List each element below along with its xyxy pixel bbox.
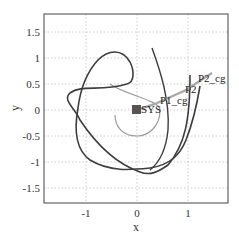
svg-text:0: 0 <box>134 207 140 219</box>
svg-text:-0.5: -0.5 <box>23 130 41 142</box>
svg-text:1: 1 <box>35 52 41 64</box>
svg-text:0: 0 <box>35 104 41 116</box>
svg-text:0.5: 0.5 <box>26 78 40 90</box>
annotation-p1cg: P1_cg <box>160 94 188 106</box>
y-axis-label: y <box>8 105 22 111</box>
trajectory-plot: SYS P1_cg P2 P2_cg 1.5 1 0.5 0 -0.5 -1 -… <box>0 0 239 240</box>
sys-marker <box>132 105 141 114</box>
svg-text:1: 1 <box>185 207 191 219</box>
y-tick-labels: 1.5 1 0.5 0 -0.5 -1 -1.5 <box>23 26 41 194</box>
annotation-p2: P2 <box>185 83 197 95</box>
annotation-sys: SYS <box>141 103 161 115</box>
svg-text:-1: -1 <box>31 156 40 168</box>
x-axis-label: x <box>133 220 139 234</box>
svg-text:-1: -1 <box>81 207 90 219</box>
annotation-p2cg: P2_cg <box>198 72 226 84</box>
x-tick-labels: -1 0 1 <box>81 207 190 219</box>
svg-text:-1.5: -1.5 <box>23 182 41 194</box>
svg-text:1.5: 1.5 <box>26 26 40 38</box>
